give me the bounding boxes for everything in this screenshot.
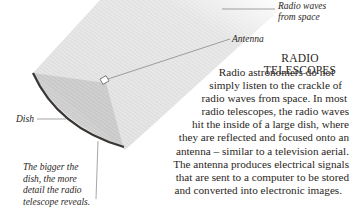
body-line: The antenna produces electrical signals: [99, 158, 349, 171]
body-line: Radio astronomers do not: [99, 66, 349, 79]
radio-waves-label-line2: from space: [278, 12, 326, 23]
body-line: hit the inside of a large dish, where: [99, 118, 349, 131]
radio-waves-label: Radio waves from space: [278, 1, 326, 23]
caption-line: telescope reveals.: [23, 197, 119, 209]
body-line: that are sent to a computer to be stored: [99, 171, 349, 184]
body-line: and converted into electronic images.: [99, 184, 349, 197]
body-line: they are reflected and focused onto an: [99, 131, 349, 144]
radio-waves-label-line1: Radio waves: [278, 1, 326, 12]
body-line: simply listen to the crackle of: [99, 79, 349, 92]
body-line: radio waves from space. In most: [99, 92, 349, 105]
body-line: radio telescopes, the radio waves: [99, 105, 349, 118]
article-body: Radio astronomers do not simply listen t…: [99, 66, 349, 197]
dish-label: Dish: [16, 114, 34, 125]
antenna-label: Antenna: [232, 34, 264, 45]
body-line: antenna – similar to a television aerial…: [99, 145, 349, 158]
